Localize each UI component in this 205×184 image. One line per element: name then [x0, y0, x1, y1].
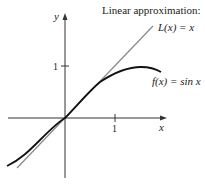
x-tick-label: 1	[112, 123, 117, 134]
line-label: L(x) = x	[157, 21, 194, 34]
x-axis-label: x	[158, 121, 164, 133]
title: Linear approximation:	[102, 4, 201, 16]
y-tick-label: 1	[53, 61, 58, 72]
sine-curve	[7, 67, 161, 166]
sine-label: f(x) = sin x	[152, 75, 201, 88]
y-axis-label: y	[53, 10, 59, 22]
x-axis-arrow-icon	[160, 116, 167, 121]
y-axis-arrow-icon	[63, 13, 68, 20]
linear-approximation-diagram: y x 1 1 Linear approximation: L(x) = x f…	[0, 0, 205, 184]
